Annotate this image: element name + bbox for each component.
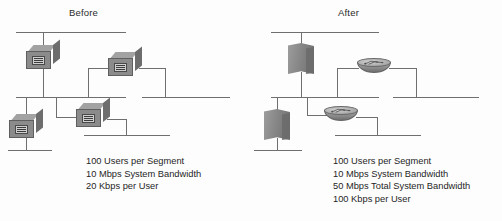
switch-led-panel <box>114 63 127 72</box>
bus-segment-bottom-middle <box>84 135 170 136</box>
bus-segment-middle-right <box>393 97 479 98</box>
link-router-2-right-drop <box>377 117 378 135</box>
caption-after-line-4: 100 Kbps per User <box>333 193 470 206</box>
link-bus-mid-to-router-2-drop <box>307 97 308 115</box>
switch-led-panel <box>82 114 95 123</box>
link-router-1-left-drop <box>337 68 338 97</box>
caption-after-line-2: 10 Mbps System Bandwidth <box>333 168 470 181</box>
caption-before-line-1: 100 Users per Segment <box>86 155 201 168</box>
link-firewall-2-to-bus-bottom <box>277 138 278 150</box>
router-cylinder-icon-2 <box>324 106 358 125</box>
link-router-1-left-arm <box>337 68 359 69</box>
link-switch-4-right-arm <box>107 119 127 120</box>
panel-before: Before <box>0 0 251 221</box>
switch-led-panel <box>32 56 45 65</box>
firewall-shade <box>282 113 290 140</box>
link-switch-2-right-arm <box>139 68 166 69</box>
link-switch-1-to-bus-mid <box>43 69 44 97</box>
router-arrow-glyphs <box>324 106 358 115</box>
link-router-1-right-arm <box>389 68 417 69</box>
router-cylinder-icon-1 <box>357 58 391 77</box>
switch-led-panel <box>15 125 28 134</box>
bus-segment-top <box>271 32 379 33</box>
firewall-wall-icon-2 <box>264 109 290 140</box>
link-switch-3-to-bus-bottom <box>26 138 27 150</box>
link-switch-2-right-drop <box>165 68 166 97</box>
link-top-bus-to-switch-1 <box>43 32 44 46</box>
router-arrow-glyphs <box>357 58 391 67</box>
caption-before: 100 Users per Segment 10 Mbps System Ban… <box>86 155 201 193</box>
network-diagram-figure: Before <box>0 0 502 221</box>
switch-box-icon-3 <box>9 114 43 139</box>
caption-after-line-1: 100 Users per Segment <box>333 155 470 168</box>
switch-box-icon-4 <box>76 103 110 128</box>
bus-segment-bottom-left <box>254 150 302 151</box>
caption-after-line-3: 50 Mbps Total System Bandwidth <box>333 180 470 193</box>
link-firewall-1-to-bus-mid <box>301 72 302 97</box>
topology-before <box>0 0 251 155</box>
firewall-wall-icon-1 <box>288 43 314 74</box>
link-bus-mid-to-switch-4-arm <box>56 117 78 118</box>
switch-box-icon-2 <box>108 52 142 77</box>
switch-side-face <box>53 40 60 64</box>
firewall-shade <box>306 47 314 74</box>
link-switch-4-right-drop <box>126 119 127 135</box>
caption-before-line-2: 10 Mbps System Bandwidth <box>86 168 201 181</box>
bus-segment-middle-left <box>271 97 379 98</box>
link-switch-2-left-drop <box>88 68 89 97</box>
link-router-2-right-arm <box>356 117 378 118</box>
panel-after: After <box>251 0 502 221</box>
switch-box-icon-1 <box>26 45 60 70</box>
caption-after: 100 Users per Segment 10 Mbps System Ban… <box>333 155 470 205</box>
link-switch-2-left-arm <box>88 68 110 69</box>
link-router-1-right-drop <box>416 68 417 97</box>
bus-segment-bottom-left <box>8 150 52 151</box>
bus-segment-bottom-middle <box>335 135 421 136</box>
bus-segment-middle-right <box>142 97 230 98</box>
bus-segment-top <box>16 32 126 33</box>
switch-side-face <box>36 109 43 133</box>
caption-before-line-3: 20 Kbps per User <box>86 180 201 193</box>
topology-after <box>251 0 502 155</box>
link-bus-mid-to-switch-4-drop <box>56 97 57 117</box>
